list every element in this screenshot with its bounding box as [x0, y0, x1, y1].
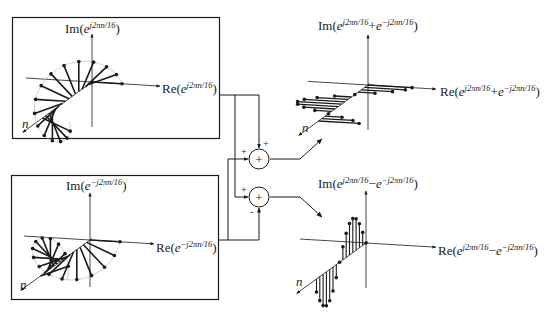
sine-stem-plot: [297, 191, 436, 308]
im-axis-label: Im(e−j2πn/16): [66, 177, 127, 193]
n-axis-label: n: [22, 116, 29, 131]
cosine-stem-plot: [296, 35, 436, 135]
re-axis-label: Re(ej2πn/16−e−j2πn/16): [438, 242, 538, 258]
wire-bottom-to-subtractor: [228, 208, 259, 240]
phasor-plot-negative: [21, 193, 154, 290]
wire-top-to-adder: [220, 95, 259, 148]
re-axis-label: Re(ej2πn/16+e−j2πn/16): [440, 83, 540, 99]
subtractor-sign-left: +: [241, 184, 247, 195]
im-axis-label: Im(ej2πn/16+e−j2πn/16): [318, 17, 418, 33]
n-axis-label: n: [302, 120, 309, 135]
wire-adder-output: [270, 139, 322, 159]
panel-positive-exponential: Im(ej2πn/16) Re(ej2πn/16) n: [13, 18, 220, 144]
subtractor-junction: + + -: [241, 184, 269, 217]
re-axis-label: Re(ej2πn/16): [162, 80, 217, 96]
signal-flow: [219, 95, 322, 240]
adder-sign-top: +: [263, 138, 269, 149]
panel-sum-output: Im(ej2πn/16+e−j2πn/16) Re(ej2πn/16+e−j2π…: [296, 17, 540, 135]
wire-bottom-to-adder: [219, 159, 248, 240]
im-axis-label: Im(ej2πn/16): [65, 20, 120, 36]
re-axis-label: Re(e−j2πn/16): [156, 239, 217, 255]
wire-subtractor-output: [270, 197, 322, 217]
n-axis-label: n: [20, 277, 27, 292]
n-axis-label: n: [296, 274, 303, 289]
phasor-sum-difference-diagram: Im(ej2πn/16) Re(ej2πn/16) n Im(e−j2πn/16…: [0, 0, 553, 319]
adder-junction: + + +: [241, 138, 269, 169]
im-axis-label: Im(ej2πn/16−e−j2πn/16): [318, 175, 418, 191]
phasor-plot-positive: [23, 34, 160, 143]
subtractor-symbol: +: [255, 190, 262, 205]
panel-negative-exponential: Im(e−j2πn/16) Re(e−j2πn/16) n: [12, 176, 219, 300]
adder-symbol: +: [255, 152, 262, 167]
subtractor-sign-bottom: -: [250, 206, 253, 217]
panel-difference-output: Im(ej2πn/16−e−j2πn/16) Re(ej2πn/16−e−j2π…: [296, 175, 538, 308]
adder-sign-left: +: [241, 146, 247, 157]
